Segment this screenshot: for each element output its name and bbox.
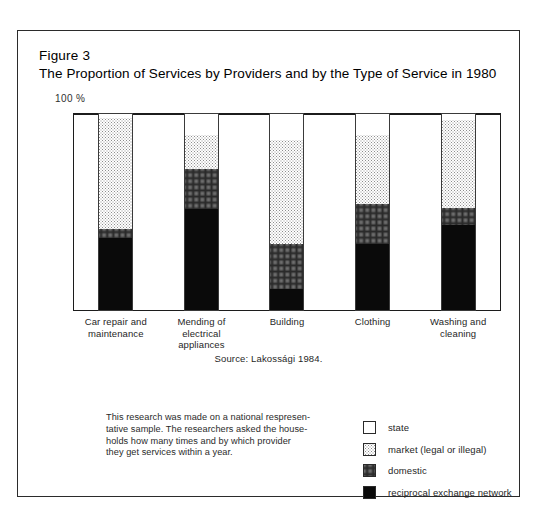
figure-number: Figure 3	[39, 47, 499, 65]
category-label: Clothing	[330, 316, 416, 351]
legend-swatch-domestic	[363, 464, 376, 477]
bar-slot	[330, 113, 416, 311]
category-label: Washing andcleaning	[415, 316, 501, 351]
legend-label-reciprocal: reciprocal exchange network	[388, 487, 512, 498]
category-axis-labels: Car repair andmaintenanceMending ofelect…	[73, 316, 501, 351]
plot-area	[73, 113, 501, 311]
stacked-bar[interactable]	[269, 113, 304, 311]
category-label-line: electrical	[159, 328, 245, 340]
bar-segment-reciprocal	[441, 225, 476, 311]
figure-border: Figure 3 The Proportion of Services by P…	[17, 30, 520, 497]
bar-slot	[159, 113, 245, 311]
category-label-line: maintenance	[73, 328, 159, 340]
category-label-line: appliances	[159, 339, 245, 351]
stacked-bar[interactable]	[441, 113, 476, 311]
legend-item-reciprocal[interactable]: reciprocal exchange network	[363, 482, 512, 504]
bar-slot	[73, 113, 159, 311]
bar-group	[73, 113, 501, 311]
research-note: This research was made on a national res…	[106, 412, 321, 459]
category-label-line: Mending of	[159, 316, 245, 328]
legend-label-state: state	[388, 422, 409, 433]
legend-swatch-reciprocal	[363, 486, 376, 499]
bar-segment-domestic	[269, 244, 304, 290]
bar-slot	[244, 113, 330, 311]
category-label: Building	[244, 316, 330, 351]
bar-segment-reciprocal	[184, 209, 219, 311]
bar-segment-reciprocal	[269, 289, 304, 311]
research-note-line-3: holds how many times and by which provid…	[106, 436, 321, 448]
bar-segment-domestic	[441, 208, 476, 225]
bar-segment-reciprocal	[98, 238, 133, 311]
bar-segment-state	[441, 113, 476, 120]
bar-segment-state	[355, 113, 390, 135]
legend-swatch-state	[363, 421, 376, 434]
chart-legend: statemarket (legal or illegal)domesticre…	[363, 417, 512, 503]
bar-segment-market	[355, 135, 390, 204]
stacked-bar[interactable]	[184, 113, 219, 311]
legend-item-domestic[interactable]: domestic	[363, 460, 512, 482]
y-axis-max-label: 100 %	[55, 93, 85, 104]
legend-swatch-market	[363, 443, 376, 456]
bar-segment-market	[98, 118, 133, 229]
bar-segment-domestic	[98, 229, 133, 238]
bar-segment-domestic	[184, 169, 219, 209]
bar-segment-market	[269, 140, 304, 244]
bar-slot	[415, 113, 501, 311]
bar-segment-market	[441, 120, 476, 208]
research-note-line-4: they get services within a year.	[106, 447, 321, 459]
bar-segment-reciprocal	[355, 244, 390, 311]
source-caption: Source: Lakossági 1984.	[18, 353, 519, 364]
category-label: Car repair andmaintenance	[73, 316, 159, 351]
research-note-line-2: tative sample. The researchers asked the…	[106, 424, 321, 436]
category-label-line: Clothing	[330, 316, 416, 328]
category-label-line: Car repair and	[73, 316, 159, 328]
bar-segment-state	[184, 113, 219, 135]
legend-item-market[interactable]: market (legal or illegal)	[363, 439, 512, 461]
stacked-bar[interactable]	[355, 113, 390, 311]
bar-segment-domestic	[355, 204, 390, 244]
category-label-line: Washing and	[415, 316, 501, 328]
category-label: Mending ofelectricalappliances	[159, 316, 245, 351]
title-block: Figure 3 The Proportion of Services by P…	[39, 47, 499, 83]
bar-segment-state	[269, 113, 304, 140]
bar-segment-state	[98, 113, 133, 118]
category-label-line: Building	[244, 316, 330, 328]
bar-segment-market	[184, 135, 219, 170]
category-label-line: cleaning	[415, 328, 501, 340]
stacked-bar[interactable]	[98, 113, 133, 311]
legend-label-market: market (legal or illegal)	[388, 444, 487, 455]
research-note-line-1: This research was made on a national res…	[106, 412, 321, 424]
legend-label-domestic: domestic	[388, 465, 427, 476]
legend-item-state[interactable]: state	[363, 417, 512, 439]
figure-title: The Proportion of Services by Providers …	[39, 65, 499, 83]
